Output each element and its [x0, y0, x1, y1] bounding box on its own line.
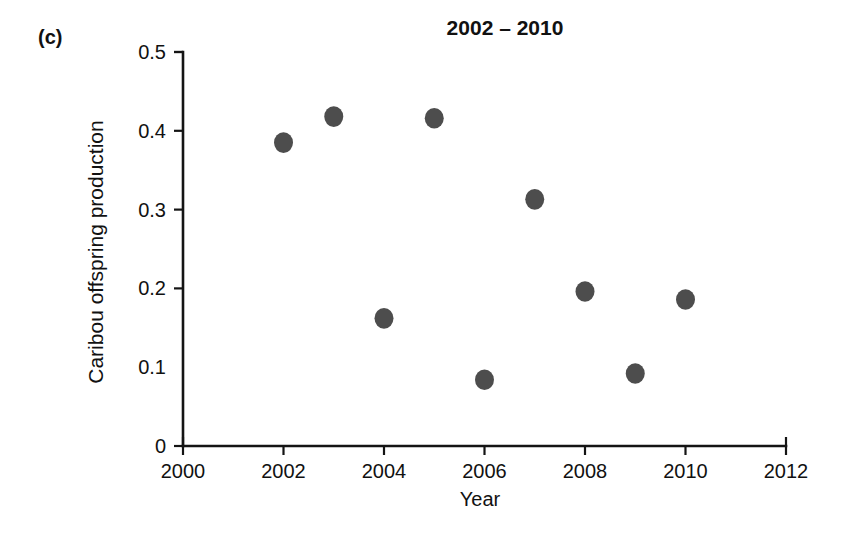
- y-tick-label: 0.1: [138, 356, 166, 378]
- data-point: [576, 281, 595, 302]
- data-point: [324, 106, 343, 127]
- data-point: [525, 189, 544, 210]
- data-point: [475, 370, 494, 391]
- y-tick-label: 0: [155, 435, 166, 457]
- scatter-plot-canvas: 00.10.20.30.40.5 20002002200420062008201…: [0, 0, 847, 540]
- x-tick-label: 2000: [161, 460, 206, 482]
- data-point: [274, 132, 293, 153]
- x-tick-label: 2004: [362, 460, 407, 482]
- y-tick-label: 0.5: [138, 41, 166, 63]
- x-tick-label: 2006: [462, 460, 507, 482]
- y-tick-label: 0.3: [138, 199, 166, 221]
- data-points-group: [274, 106, 695, 390]
- x-tick-label: 2008: [563, 460, 608, 482]
- x-tick-label: 2012: [764, 460, 809, 482]
- figure-panel-c: (c) 2002 – 2010 Caribou offspring produc…: [0, 0, 847, 540]
- y-axis: 00.10.20.30.40.5: [138, 41, 183, 457]
- data-point: [676, 289, 695, 310]
- y-tick-label: 0.2: [138, 277, 166, 299]
- data-point: [375, 308, 394, 329]
- data-point: [425, 108, 444, 129]
- data-point: [626, 363, 645, 384]
- y-tick-label: 0.4: [138, 120, 166, 142]
- x-tick-label: 2002: [261, 460, 306, 482]
- x-axis: 2000200220042006200820102012: [161, 437, 809, 482]
- x-tick-label: 2010: [663, 460, 708, 482]
